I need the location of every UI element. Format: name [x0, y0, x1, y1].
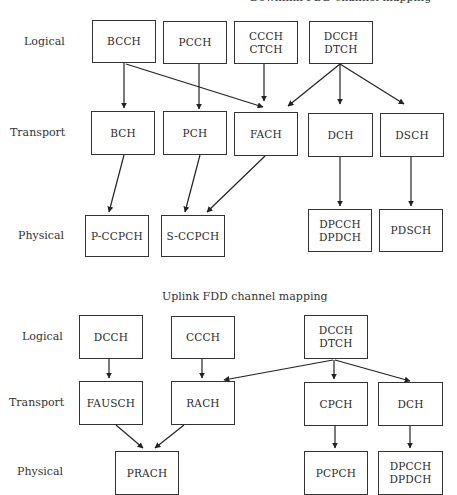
- box-label: FAUSCH: [87, 397, 135, 410]
- ul-logical-dcch: DCCH: [79, 315, 143, 359]
- downlink-title: Downlink FDD channel mapping: [250, 0, 431, 4]
- box-label: DCCH: [319, 324, 353, 337]
- dl-transport-pch: PCH: [163, 111, 227, 155]
- dl-logical-pcch: PCCH: [163, 21, 227, 64]
- ul-transport-rach: RACH: [171, 381, 235, 425]
- dl-logical-dcch-dtch: DCCH DTCH: [309, 21, 373, 64]
- dl-physical-s-ccpch: S-CCPCH: [161, 215, 225, 257]
- dl-transport-fach: FACH: [234, 112, 298, 156]
- downlink-row-label-physical: Physical: [18, 229, 64, 242]
- uplink-row-label-physical: Physical: [17, 465, 63, 478]
- box-label: CCCH: [186, 331, 220, 344]
- box-label: PCH: [183, 127, 208, 140]
- dl-physical-dpcch-dpdch: DPCCH DPDCH: [308, 209, 372, 252]
- box-label: DPCCH: [390, 460, 432, 473]
- arrow-ul-fausch-prach: [116, 425, 143, 448]
- box-label: DCH: [327, 129, 353, 142]
- ul-transport-dch: DCH: [378, 382, 443, 426]
- ul-physical-dpcch-dpdch: DPCCH DPDCH: [378, 451, 443, 495]
- ul-physical-pcpch: PCPCH: [304, 451, 368, 495]
- arrow-fach-sccpch: [207, 156, 265, 212]
- arrow-dtch-fach: [288, 64, 340, 106]
- box-label: PDSCH: [391, 224, 432, 237]
- box-label: DCCH: [324, 30, 358, 43]
- box-label: FACH: [250, 128, 282, 141]
- dl-transport-bch: BCH: [91, 111, 155, 155]
- box-label: RACH: [186, 397, 219, 410]
- ul-physical-prach: PRACH: [115, 451, 179, 495]
- uplink-title: Uplink FDD channel mapping: [162, 290, 328, 303]
- box-label: DCH: [397, 398, 423, 411]
- box-label: BCH: [110, 127, 136, 140]
- ul-logical-ccch: CCCH: [171, 316, 235, 359]
- dl-logical-ccch-ctch: CCCH CTCH: [234, 21, 298, 64]
- arrow-ul-rach-prach: [155, 425, 184, 448]
- box-label: PRACH: [127, 467, 168, 480]
- dl-transport-dsch: DSCH: [380, 113, 444, 157]
- dl-logical-bcch: BCCH: [92, 20, 156, 63]
- box-label: DTCH: [319, 337, 352, 350]
- box-label: DSCH: [395, 129, 429, 142]
- box-label: CTCH: [249, 43, 282, 56]
- arrow-bcch-fach: [126, 64, 263, 107]
- downlink-row-label-transport: Transport: [10, 126, 65, 139]
- uplink-row-label-transport: Transport: [9, 396, 64, 409]
- dl-physical-p-ccpch: P-CCPCH: [85, 215, 149, 257]
- box-label: P-CCPCH: [91, 230, 143, 243]
- ul-transport-fausch: FAUSCH: [79, 381, 143, 425]
- arrow-ul-dtch-rach: [224, 360, 333, 380]
- box-label: BCCH: [107, 35, 141, 48]
- box-label: PCCH: [178, 36, 211, 49]
- uplink-row-label-logical: Logical: [22, 330, 63, 343]
- box-label: DTCH: [324, 43, 357, 56]
- dl-physical-pdsch: PDSCH: [379, 209, 443, 252]
- arrow-ul-dtch-dch: [335, 360, 410, 381]
- arrow-bch-pccpch: [109, 155, 124, 212]
- box-label: DPCCH: [319, 218, 361, 231]
- ul-transport-cpch: CPCH: [304, 382, 368, 426]
- box-label: DPDCH: [389, 473, 431, 486]
- box-label: DCCH: [94, 331, 128, 344]
- box-label: CPCH: [319, 398, 352, 411]
- box-label: DPDCH: [319, 231, 361, 244]
- arrow-pch-sccpch: [185, 155, 200, 212]
- arrow-dtch-dsch: [340, 64, 404, 104]
- box-label: S-CCPCH: [167, 230, 220, 243]
- downlink-row-label-logical: Logical: [24, 35, 65, 48]
- dl-transport-dch: DCH: [308, 113, 373, 157]
- box-label: CCCH: [249, 30, 283, 43]
- box-label: PCPCH: [316, 467, 356, 480]
- ul-logical-dcch-dtch: DCCH DTCH: [304, 315, 368, 359]
